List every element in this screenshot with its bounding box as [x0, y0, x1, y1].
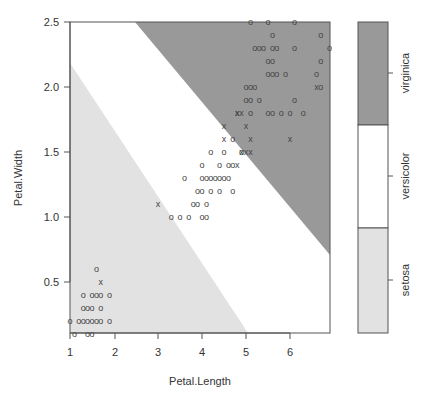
data-point-marker: o	[177, 212, 182, 222]
data-point-marker: o	[72, 329, 77, 339]
y-tick-label: 1.5	[44, 146, 59, 158]
x-axis-title: Petal.Length	[169, 375, 231, 387]
y-axis: 2.52.01.51.00.5	[44, 16, 70, 288]
data-point-marker: o	[226, 173, 231, 183]
support-vector-marker: x	[222, 121, 227, 131]
data-point-marker: o	[217, 186, 222, 196]
data-point-marker: o	[182, 173, 187, 183]
data-point-marker: o	[107, 290, 112, 300]
data-point-marker: o	[230, 134, 235, 144]
x-tick-label: 5	[243, 346, 249, 358]
data-point-marker: o	[314, 69, 319, 79]
support-vector-marker: x	[99, 277, 104, 287]
support-vector-marker: x	[248, 147, 253, 157]
y-tick-label: 2.0	[44, 81, 59, 93]
data-point-marker: o	[257, 95, 262, 105]
data-point-marker: o	[248, 17, 253, 27]
legend-label-virginica: virginica	[399, 52, 411, 93]
support-vector-marker: x	[235, 108, 240, 118]
x-tick-label: 3	[155, 346, 161, 358]
data-point-marker: o	[265, 108, 270, 118]
x-tick-label: 6	[287, 346, 293, 358]
support-vector-marker: x	[288, 134, 293, 144]
data-point-marker: o	[318, 30, 323, 40]
data-point-marker: o	[261, 43, 266, 53]
data-point-marker: o	[252, 82, 257, 92]
data-point-marker: o	[208, 186, 213, 196]
data-point-marker: o	[98, 290, 103, 300]
data-point-marker: o	[274, 43, 279, 53]
legend-swatch-versicolor	[358, 125, 388, 228]
x-axis: 123456	[67, 333, 293, 358]
y-tick-label: 1.0	[44, 211, 59, 223]
data-point-marker: o	[98, 316, 103, 326]
data-point-marker: o	[292, 17, 297, 27]
data-point-marker: o	[327, 43, 332, 53]
data-point-marker: o	[221, 147, 226, 157]
data-point-marker: o	[195, 199, 200, 209]
data-point-marker: o	[81, 290, 86, 300]
data-point-marker: o	[98, 303, 103, 313]
data-point-marker: o	[208, 147, 213, 157]
data-point-marker: o	[270, 56, 275, 66]
data-point-marker: o	[243, 95, 248, 105]
data-point-marker: o	[94, 264, 99, 274]
data-point-marker: o	[279, 108, 284, 118]
data-point-marker: o	[318, 56, 323, 66]
support-vector-marker: x	[239, 108, 244, 118]
data-point-marker: o	[318, 82, 323, 92]
data-point-marker: o	[199, 160, 204, 170]
data-point-marker: o	[248, 108, 253, 118]
y-tick-label: 0.5	[44, 276, 59, 288]
support-vector-marker: x	[244, 121, 249, 131]
support-vector-marker: x	[314, 82, 319, 92]
support-vector-marker: x	[156, 199, 161, 209]
legend-colorbar: virginica versicolor setosa	[358, 22, 411, 333]
data-point-marker: o	[89, 329, 94, 339]
x-tick-label: 4	[199, 346, 205, 358]
data-point-marker: o	[283, 69, 288, 79]
y-tick-label: 2.5	[44, 16, 59, 28]
data-point-marker: o	[107, 316, 112, 326]
data-point-marker: o	[257, 43, 262, 53]
y-axis-title: Petal.Width	[12, 150, 24, 206]
x-tick-label: 2	[112, 346, 118, 358]
data-point-marker: o	[292, 95, 297, 105]
legend-label-versicolor: versicolor	[399, 152, 411, 199]
svm-classification-plot: oooooooooooooooooooooxoooooooooooooooooo…	[0, 0, 434, 405]
legend-swatch-setosa	[358, 228, 388, 333]
data-point-marker: o	[169, 212, 174, 222]
data-point-marker: o	[274, 69, 279, 79]
data-point-marker: o	[67, 316, 72, 326]
x-tick-label: 1	[67, 346, 73, 358]
data-point-marker: o	[204, 199, 209, 209]
data-point-marker: o	[265, 17, 270, 27]
data-point-marker: o	[199, 186, 204, 196]
data-point-marker: o	[301, 108, 306, 118]
data-point-marker: o	[204, 212, 209, 222]
data-point-marker: o	[191, 199, 196, 209]
data-point-marker: o	[217, 160, 222, 170]
data-point-marker: o	[292, 43, 297, 53]
support-vector-marker: x	[248, 134, 253, 144]
data-point-marker: o	[248, 95, 253, 105]
data-point-marker: o	[186, 212, 191, 222]
data-point-marker: o	[287, 108, 292, 118]
data-point-marker: o	[270, 108, 275, 118]
data-point-marker: o	[230, 186, 235, 196]
data-point-marker: o	[89, 303, 94, 313]
support-vector-marker: x	[222, 134, 227, 144]
legend-swatch-virginica	[358, 22, 388, 125]
legend-label-setosa: setosa	[399, 263, 411, 296]
data-point-marker: o	[270, 30, 275, 40]
support-vector-marker: x	[235, 160, 240, 170]
